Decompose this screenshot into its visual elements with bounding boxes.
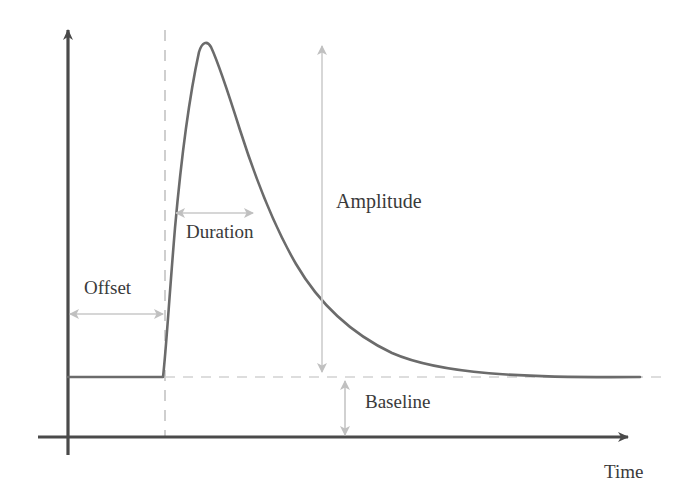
- offset-label: Offset: [84, 278, 131, 297]
- duration-label: Duration: [186, 222, 254, 241]
- diagram-canvas: [0, 0, 691, 500]
- time-axis-label: Time: [604, 462, 643, 481]
- waveform-diagram: Offset Duration Amplitude Baseline Time: [0, 0, 691, 500]
- baseline-label: Baseline: [365, 392, 430, 411]
- amplitude-label: Amplitude: [336, 191, 422, 211]
